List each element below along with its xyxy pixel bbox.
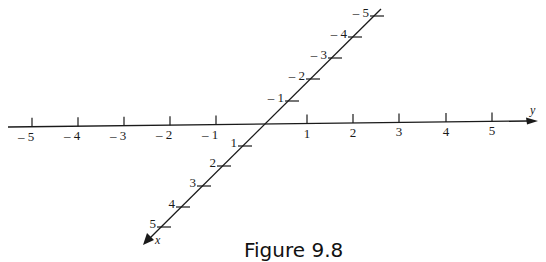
y-tick-label: 3 (396, 124, 403, 139)
x-tick-label: 1 (231, 135, 238, 150)
y-axis-name: y (529, 103, 536, 117)
y-tick-label: – 3 (109, 128, 126, 143)
x-tick-label: 3 (190, 175, 197, 190)
y-tick-label: – 5 (17, 129, 34, 144)
x-tick-label: 2 (210, 155, 217, 170)
y-axis-arrowhead-icon (526, 118, 538, 125)
x-tick-label: – 1 (267, 90, 284, 105)
x-tick-label: – 2 (288, 68, 305, 83)
x-tick-label: – 4 (330, 26, 348, 41)
x-tick-label: 4 (169, 196, 176, 211)
y-axis-ticks: – 5– 4– 3– 2– 112345 (17, 112, 495, 143)
y-tick-label: 1 (304, 126, 311, 141)
figure-caption: Figure 9.8 (244, 238, 343, 262)
x-axis-name: x (154, 233, 161, 247)
y-tick-label: 2 (350, 125, 357, 140)
x-tick-label: 5 (150, 216, 157, 231)
y-tick-label: 4 (443, 124, 450, 139)
y-tick-label: – 2 (155, 127, 172, 142)
x-tick-label: – 3 (310, 47, 327, 62)
y-tick-label: – 4 (63, 128, 81, 143)
y-tick-label: – 1 (201, 127, 218, 142)
y-tick-label: 5 (489, 123, 496, 138)
x-axis-ticks: – 5– 4– 3– 2– 112345 (150, 5, 385, 231)
x-tick-label: – 5 (352, 5, 369, 20)
